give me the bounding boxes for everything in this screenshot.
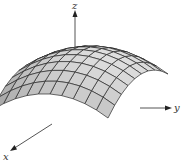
x-axis-label: x bbox=[3, 151, 9, 162]
z-axis: z bbox=[71, 0, 78, 54]
y-axis: y bbox=[140, 102, 180, 113]
dome-surface bbox=[0, 46, 168, 118]
y-axis-label: y bbox=[173, 102, 180, 113]
x-axis: x bbox=[3, 124, 52, 162]
surface-plot: z y x bbox=[0, 0, 186, 167]
z-axis-label: z bbox=[71, 0, 78, 11]
